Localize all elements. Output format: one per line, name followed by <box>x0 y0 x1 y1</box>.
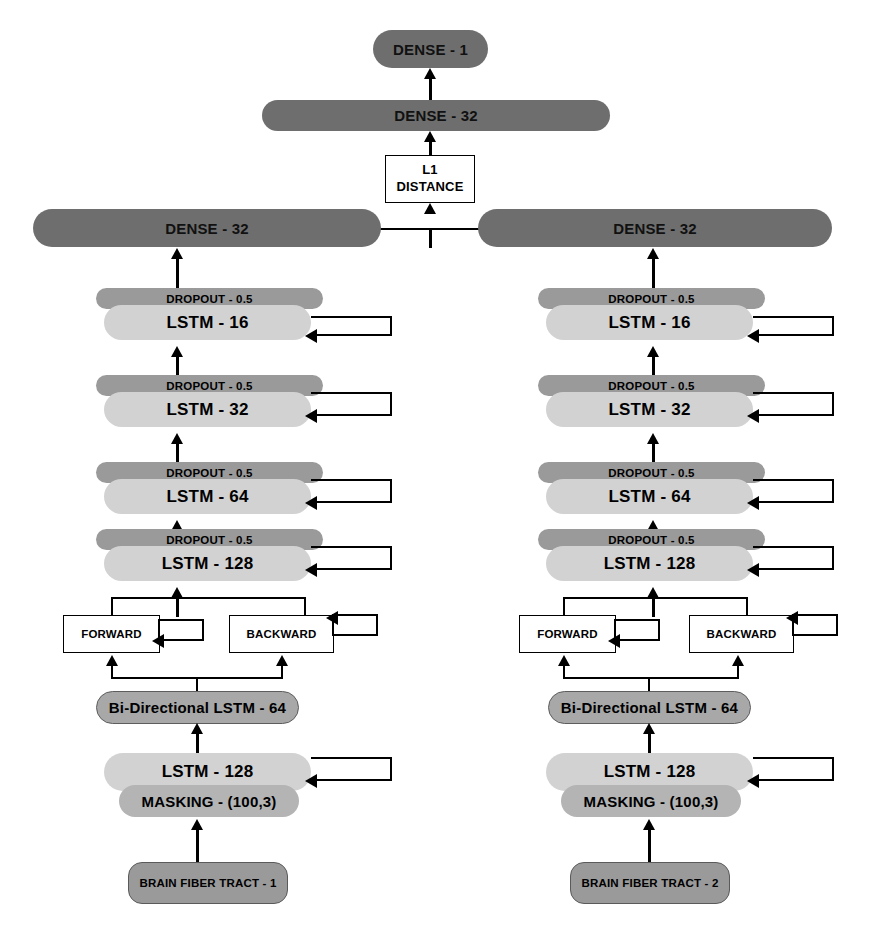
node-left-lstm-64: LSTM - 64 <box>104 479 311 514</box>
arrowhead-recurrent-right-backward <box>786 611 798 625</box>
node-right-input-brain-fiber-tract: BRAIN FIBER TRACT - 2 <box>570 862 730 904</box>
edge-right-lstm128-to-bidir <box>648 733 651 755</box>
edge-bidir-merge-to-lstm128-right <box>652 597 655 617</box>
node-left-lstm-128-upper: LSTM - 128 <box>104 546 311 581</box>
arrowhead-left-dropout3-to-lstm32 <box>171 433 183 444</box>
node-right-lstm-16: LSTM - 16 <box>546 305 753 340</box>
edge-right-dropout1-to-dense <box>652 258 655 288</box>
node-left-bidirectional-lstm-64: Bi-Directional LSTM - 64 <box>96 691 299 724</box>
arrowhead-recurrent-right-lstm-16 <box>747 329 759 343</box>
arrowhead-left-backward-in <box>276 655 288 666</box>
arrowhead-left-input-to-masking <box>191 819 203 830</box>
arrowhead-l1-to-dense32 <box>424 131 436 142</box>
node-dense-1: DENSE - 1 <box>373 30 488 68</box>
recurrent-loop-left-lstm-64 <box>311 479 392 503</box>
recurrent-loop-left-backward <box>332 614 378 636</box>
arrowhead-left-forward-in <box>106 655 118 666</box>
node-right-lstm-128-upper: LSTM - 128 <box>546 546 753 581</box>
recurrent-loop-right-forward <box>614 619 660 641</box>
edge-left-lstm128-to-bidir <box>196 733 199 755</box>
node-left-input-brain-fiber-tract: BRAIN FIBER TRACT - 1 <box>128 862 288 904</box>
node-right-masking: MASKING - (100,3) <box>561 785 741 817</box>
node-right-lstm-64: LSTM - 64 <box>546 479 753 514</box>
node-l1-distance: L1 DISTANCE <box>385 155 475 203</box>
arrowhead-recurrent-left-lstm-16 <box>305 329 317 343</box>
node-left-forward: FORWARD <box>63 615 160 653</box>
edge-bidir-merge-to-lstm128-left <box>176 597 179 617</box>
arrowhead-recurrent-right-lstm-128-base <box>747 774 759 788</box>
arrowhead-dense32-to-dense1 <box>424 68 436 79</box>
arrowhead-recurrent-left-lstm-32 <box>305 409 317 423</box>
arrowhead-left-lstm128-to-bidir <box>191 723 203 734</box>
node-left-lstm-16: LSTM - 16 <box>104 305 311 340</box>
node-left-backward: BACKWARD <box>229 615 334 653</box>
node-left-lstm-32: LSTM - 32 <box>104 392 311 427</box>
l1-label-line2: DISTANCE <box>396 179 463 196</box>
recurrent-loop-right-lstm-64 <box>753 479 834 503</box>
node-right-dense-32: DENSE - 32 <box>478 209 832 247</box>
edge-left-bidir-up <box>196 677 198 691</box>
edge-left-fb-top-bus <box>111 597 306 599</box>
edge-merge-bus-to-l1 <box>429 228 432 248</box>
edge-right-input-to-masking <box>648 829 651 862</box>
edge-l1-to-dense32 <box>429 141 432 156</box>
arrowhead-merge-bus-to-l1 <box>424 203 436 214</box>
arrowhead-right-forward-in <box>558 655 570 666</box>
node-dense-32-merge: DENSE - 32 <box>262 100 610 131</box>
arrowhead-right-dropout1-to-dense <box>647 248 659 259</box>
arrowhead-recurrent-left-lstm-128-upper <box>305 563 317 577</box>
recurrent-loop-right-lstm-128-base <box>753 757 834 781</box>
arrowhead-right-input-to-masking <box>643 819 655 830</box>
arrowhead-recurrent-left-lstm-128-base <box>305 774 317 788</box>
node-right-bidirectional-lstm-64: Bi-Directional LSTM - 64 <box>548 691 751 724</box>
edge-right-forward-up <box>563 597 565 615</box>
recurrent-loop-left-lstm-128-base <box>311 757 392 781</box>
arrowhead-recurrent-right-lstm-128-upper <box>747 563 759 577</box>
arrowhead-left-dropout1-to-dense <box>171 248 183 259</box>
arrowhead-recurrent-left-backward <box>326 611 338 625</box>
node-right-backward: BACKWARD <box>689 615 794 653</box>
node-left-dense-32: DENSE - 32 <box>33 209 381 247</box>
recurrent-loop-left-lstm-32 <box>311 392 392 416</box>
arrowhead-recurrent-right-lstm-32 <box>747 409 759 423</box>
edge-left-forward-up <box>111 597 113 615</box>
node-left-masking: MASKING - (100,3) <box>119 785 299 817</box>
recurrent-loop-left-lstm-16 <box>311 316 392 336</box>
edge-left-input-to-masking <box>196 829 199 862</box>
edge-right-fb-top-bus <box>563 597 748 599</box>
arrowhead-right-backward-in <box>732 655 744 666</box>
edge-dense32-to-dense1 <box>429 78 432 100</box>
arrowhead-right-lstm128-to-bidir <box>643 723 655 734</box>
l1-label-line1: L1 <box>422 162 438 179</box>
arrowhead-right-dropout3-to-lstm32 <box>647 433 659 444</box>
arrowhead-recurrent-right-lstm-64 <box>747 496 759 510</box>
recurrent-loop-right-lstm-128-upper <box>753 546 834 570</box>
recurrent-loop-right-backward <box>792 614 838 636</box>
edge-left-backward-up <box>304 597 306 615</box>
node-right-lstm-32: LSTM - 32 <box>546 392 753 427</box>
arrowhead-recurrent-left-forward <box>152 634 164 648</box>
arrowhead-recurrent-left-lstm-64 <box>305 496 317 510</box>
edge-left-dropout1-to-dense <box>176 258 179 288</box>
edge-right-fb-bottom-bus <box>563 677 739 679</box>
edge-right-backward-up <box>746 597 748 615</box>
recurrent-loop-left-forward <box>158 619 204 641</box>
arrowhead-recurrent-right-forward <box>608 634 620 648</box>
recurrent-loop-right-lstm-32 <box>753 392 834 416</box>
recurrent-loop-right-lstm-16 <box>753 316 834 336</box>
edge-right-bidir-up <box>648 677 650 691</box>
recurrent-loop-left-lstm-128-upper <box>311 546 392 570</box>
architecture-diagram: DENSE - 1 DENSE - 32 L1 DISTANCE DENSE -… <box>0 0 869 936</box>
arrowhead-left-dropout2-to-lstm16 <box>171 346 183 357</box>
arrowhead-right-dropout2-to-lstm16 <box>647 346 659 357</box>
node-right-forward: FORWARD <box>519 615 616 653</box>
